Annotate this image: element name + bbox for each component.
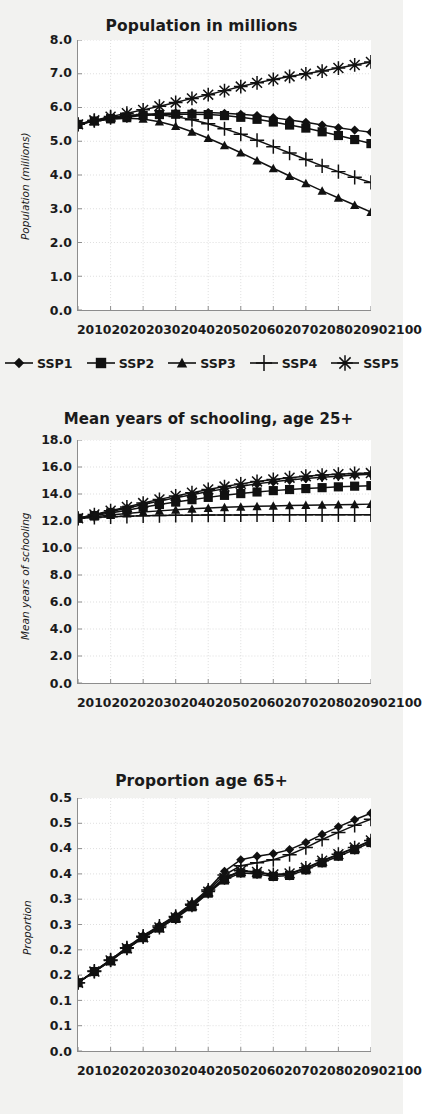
- square-marker: [334, 131, 343, 140]
- x-tick-label: 2050: [215, 322, 250, 337]
- asterisk-marker: [218, 480, 232, 494]
- asterisk-marker: [218, 871, 232, 885]
- triangle-marker: [285, 171, 294, 179]
- triangle-marker: [167, 354, 197, 372]
- plus-marker: [185, 508, 199, 522]
- y-tick-label: 4.0: [32, 623, 72, 636]
- legend-item-ssp5[interactable]: SSP5: [330, 354, 399, 372]
- asterisk-marker: [348, 58, 362, 72]
- plus-marker: [256, 355, 272, 371]
- y-tick-label: 0.2: [32, 969, 72, 982]
- y-tick-label: 0.4: [32, 868, 72, 881]
- x-tick-label: 2020: [112, 695, 147, 710]
- gridlines-population: [78, 40, 371, 310]
- legend-item-ssp2[interactable]: SSP2: [86, 354, 155, 372]
- plus-marker: [250, 508, 264, 522]
- diamond-marker: [366, 128, 371, 137]
- x-tick-label: 2080: [319, 695, 354, 710]
- asterisk-marker: [153, 99, 167, 113]
- square-marker: [366, 139, 371, 148]
- asterisk-marker: [364, 55, 371, 69]
- square-marker: [252, 115, 261, 124]
- y-tick-label: 0.1: [32, 1020, 72, 1033]
- y-tick-label: 18.0: [32, 434, 72, 447]
- plot-area-population: [77, 40, 371, 311]
- asterisk-marker: [299, 861, 313, 875]
- asterisk-marker: [299, 67, 313, 81]
- plot-area-elderly: [77, 798, 371, 1052]
- plus-marker: [201, 117, 215, 131]
- plus-marker: [217, 508, 231, 522]
- legend-label: SSP3: [200, 356, 236, 371]
- asterisk-marker: [104, 110, 118, 124]
- legend-item-ssp1[interactable]: SSP1: [4, 354, 73, 372]
- chart-panel-schooling: Mean years of schooling, age 25+ Mean ye…: [0, 390, 403, 750]
- asterisk-marker: [315, 468, 329, 482]
- square-marker: [301, 124, 310, 133]
- asterisk-marker: [234, 864, 248, 878]
- square-marker: [350, 135, 359, 144]
- plus-marker: [266, 140, 280, 154]
- x-tick-label: 2040: [181, 1063, 216, 1078]
- y-tick-label: 7.0: [32, 67, 72, 80]
- y-tick-label: 14.0: [32, 488, 72, 501]
- plus-marker: [331, 165, 345, 179]
- x-tick-label: 2030: [146, 322, 181, 337]
- asterisk-marker: [87, 113, 101, 127]
- asterisk-marker: [87, 508, 101, 522]
- asterisk-marker: [201, 88, 215, 102]
- asterisk-marker: [153, 921, 167, 935]
- y-tick-label: 1.0: [32, 271, 72, 284]
- asterisk-marker: [315, 64, 329, 78]
- square-marker: [220, 111, 229, 120]
- series-ssp4: [78, 812, 371, 990]
- legend-item-ssp3[interactable]: SSP3: [167, 354, 236, 372]
- asterisk-marker: [169, 489, 183, 503]
- asterisk-marker: [201, 483, 215, 497]
- asterisk-marker: [283, 867, 297, 881]
- triangle-marker: [236, 148, 245, 156]
- legend-label: SSP1: [37, 356, 73, 371]
- triangle-marker: [350, 200, 359, 208]
- x-tick-label: 2080: [319, 322, 354, 337]
- asterisk-marker: [266, 473, 280, 487]
- legend-item-ssp4[interactable]: SSP4: [249, 354, 318, 372]
- y-tick-label: 0.5: [32, 817, 72, 830]
- series-ssp1: [78, 809, 371, 988]
- plus-marker: [169, 110, 183, 124]
- triangle-marker: [252, 156, 261, 164]
- square-marker: [86, 354, 116, 372]
- plus-marker: [299, 508, 313, 522]
- plus-marker: [217, 122, 231, 136]
- plus-marker: [250, 133, 264, 147]
- asterisk-marker: [120, 500, 134, 514]
- y-tick-label: 6.0: [32, 596, 72, 609]
- asterisk-marker: [332, 847, 346, 861]
- asterisk-marker: [332, 61, 346, 75]
- legend-label: SSP5: [363, 356, 399, 371]
- chart-title-schooling: Mean years of schooling, age 25+: [14, 410, 403, 428]
- square-marker: [366, 481, 371, 490]
- triangle-marker: [318, 186, 327, 194]
- y-tick-label: 0.4: [32, 842, 72, 855]
- plus-marker: [348, 818, 362, 832]
- asterisk-marker: [330, 354, 360, 372]
- x-tick-label: 2050: [215, 695, 250, 710]
- asterisk-marker: [315, 854, 329, 868]
- triangle-marker: [204, 134, 213, 142]
- asterisk-marker: [364, 466, 371, 480]
- asterisk-marker: [185, 92, 199, 106]
- x-tick-label: 2050: [215, 1063, 250, 1078]
- x-tick-label: 2090: [353, 1063, 388, 1078]
- chart-canvas-elderly: [78, 798, 371, 1051]
- y-tick-label: 0.0: [32, 1046, 72, 1059]
- asterisk-marker: [266, 868, 280, 882]
- x-tick-label: 2090: [353, 322, 388, 337]
- x-tick-label: 2010: [77, 1063, 112, 1078]
- asterisk-marker: [169, 911, 183, 925]
- plot-area-schooling: [77, 440, 371, 684]
- asterisk-marker: [87, 965, 101, 979]
- y-tick-label: 10.0: [32, 542, 72, 555]
- y-tick-label: 2.0: [32, 650, 72, 663]
